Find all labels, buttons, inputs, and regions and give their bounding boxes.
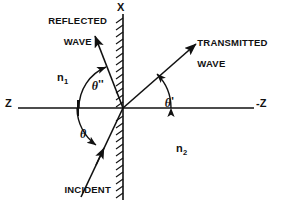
reflected-wave-line1: REFLECTED: [48, 15, 107, 26]
n2-symbol: n: [176, 142, 183, 154]
transmitted-angle-prime: ': [171, 95, 174, 107]
incident-angle-label: θ: [80, 128, 86, 141]
n1-symbol: n: [57, 71, 64, 83]
refractive-index-n1: n1: [44, 60, 68, 98]
reflected-angle-label: θ'': [79, 66, 104, 106]
n2-subscript: 2: [183, 148, 187, 157]
transmitted-wave-label: TRANSMITTED WAVE: [186, 28, 280, 79]
reflected-wave-label: REFLECTED WAVE: [31, 6, 113, 57]
transmitted-wave-line2: WAVE: [197, 58, 225, 69]
z-axis-label-left: Z: [5, 98, 12, 110]
optics-interface-diagram: REFLECTED WAVE TRANSMITTED WAVE INCIDENT…: [0, 0, 281, 208]
refractive-index-n2: n2: [163, 131, 187, 169]
z-axis-label-right: -Z: [256, 98, 267, 110]
incident-ray-arrow: [96, 148, 104, 165]
reflected-wave-line2: WAVE: [64, 36, 92, 47]
n1-subscript: 1: [64, 77, 68, 86]
incident-wave-label: INCIDENT WAVE: [41, 175, 123, 208]
incident-wave-line1: INCIDENT: [64, 184, 110, 195]
transmitted-angle-label: θ': [152, 83, 174, 123]
x-axis-label: X: [117, 2, 125, 14]
incident-wave-line2: WAVE: [74, 205, 102, 208]
transmitted-wave-line1: TRANSMITTED: [197, 37, 267, 48]
reflected-angle-prime: '': [98, 78, 104, 90]
